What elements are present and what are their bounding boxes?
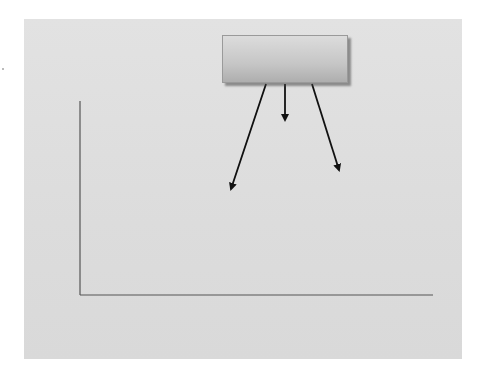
arrow-to-bar-3 <box>231 84 266 189</box>
annotation-callout <box>222 35 348 83</box>
arrow-to-bar-5 <box>312 84 339 170</box>
annotation-arrows <box>231 84 339 189</box>
